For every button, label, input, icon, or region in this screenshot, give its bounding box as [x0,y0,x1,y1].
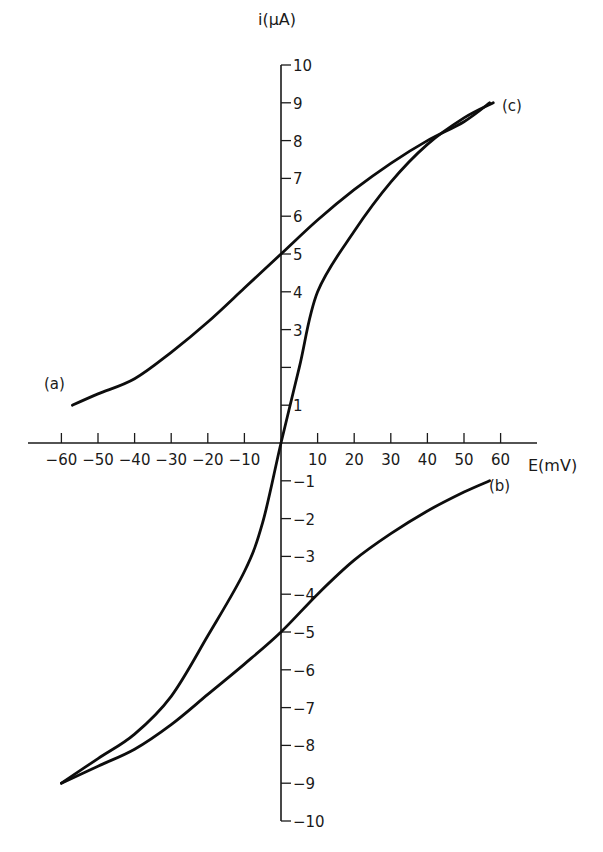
y-tick-label: 6 [293,208,303,226]
y-tick-label: −8 [293,737,315,755]
y-tick-label: −6 [293,662,315,680]
ticks: −60−50−40−30−20−101020304050601098765431… [46,57,511,831]
curve-label-c: (c) [502,97,522,115]
y-tick-label: 8 [293,133,303,151]
y-tick-label: −7 [293,700,315,718]
y-tick-label: 10 [293,57,312,75]
y-tick-label: 3 [293,322,303,340]
curve-b [61,481,489,783]
x-tick-label: −50 [82,451,114,469]
y-tick-label: −1 [293,473,315,491]
y-tick-label: −3 [293,548,315,566]
x-tick-label: 30 [381,451,400,469]
y-tick-label: 1 [293,397,303,415]
x-tick-label: −30 [155,451,187,469]
x-tick-label: 10 [308,451,327,469]
x-tick-label: −40 [119,451,151,469]
curve-label-a: (a) [44,375,65,393]
y-axis-label: i(μA) [258,10,296,29]
x-tick-label: −20 [192,451,224,469]
x-tick-label: 20 [345,451,364,469]
y-tick-label: 7 [293,170,303,188]
x-tick-label: 60 [491,451,510,469]
iv-chart: −60−50−40−30−20−101020304050601098765431… [0,0,603,852]
y-tick-label: −2 [293,511,315,529]
x-tick-label: −60 [46,451,78,469]
y-tick-label: 5 [293,246,303,264]
x-axis-label: E(mV) [528,456,577,475]
y-tick-label: −10 [293,813,325,831]
x-tick-label: 40 [418,451,437,469]
y-tick-label: 4 [293,284,303,302]
x-tick-label: −10 [229,451,261,469]
curve-label-b: (b) [489,477,510,495]
y-tick-label: −9 [293,775,315,793]
y-tick-label: −5 [293,624,315,642]
x-tick-label: 50 [454,451,473,469]
y-tick-label: 9 [293,95,303,113]
